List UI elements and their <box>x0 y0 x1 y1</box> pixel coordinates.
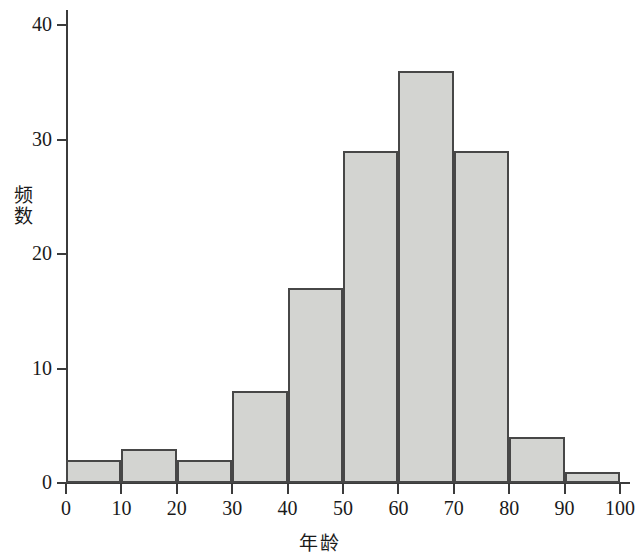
x-tick-mark <box>453 484 455 494</box>
x-tick-mark <box>231 484 233 494</box>
x-tick-label: 20 <box>167 498 187 518</box>
y-tick-mark <box>57 368 66 370</box>
x-tick-mark <box>176 484 178 494</box>
x-tick-mark <box>120 484 122 494</box>
x-tick-label: 40 <box>278 498 298 518</box>
y-tick-label: 20 <box>32 243 52 263</box>
x-tick-mark <box>508 484 510 494</box>
histogram-bar <box>509 437 564 483</box>
y-tick-label: 40 <box>32 14 52 34</box>
x-tick-mark <box>564 484 566 494</box>
histogram-chart: 频数 010203040 0102030405060708090100 年龄 <box>0 0 639 560</box>
histogram-bar <box>398 71 453 483</box>
histogram-bar <box>66 460 121 483</box>
x-tick-label: 0 <box>61 498 71 518</box>
histogram-bar <box>121 449 176 483</box>
y-tick-label: 10 <box>32 358 52 378</box>
x-tick-mark <box>397 484 399 494</box>
histogram-bar <box>343 151 398 483</box>
x-tick-label: 60 <box>388 498 408 518</box>
x-tick-label: 30 <box>222 498 242 518</box>
x-tick-label: 50 <box>333 498 353 518</box>
histogram-bar <box>232 391 287 483</box>
y-tick-mark <box>57 253 66 255</box>
y-tick-label: 0 <box>42 472 52 492</box>
y-tick-mark <box>57 139 66 141</box>
x-tick-label: 100 <box>605 498 635 518</box>
x-tick-label: 10 <box>111 498 131 518</box>
histogram-bar <box>565 472 620 483</box>
x-tick-mark <box>287 484 289 494</box>
y-tick-mark <box>57 24 66 26</box>
x-tick-label: 80 <box>499 498 519 518</box>
histogram-bar <box>288 288 343 483</box>
histogram-bar <box>177 460 232 483</box>
x-axis-label: 年龄 <box>0 528 639 555</box>
x-tick-label: 90 <box>555 498 575 518</box>
x-tick-mark <box>342 484 344 494</box>
y-tick-label: 30 <box>32 129 52 149</box>
histogram-bar <box>454 151 509 483</box>
x-tick-mark <box>65 484 67 494</box>
x-tick-mark <box>619 484 621 494</box>
x-tick-label: 70 <box>444 498 464 518</box>
y-axis-label: 频数 <box>6 186 40 227</box>
